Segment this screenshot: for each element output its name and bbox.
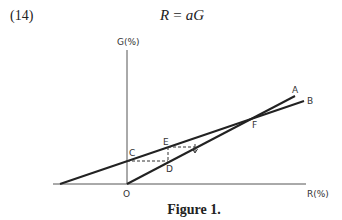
point-e-label: E xyxy=(163,137,169,147)
line-b xyxy=(60,101,304,184)
line-b-label: B xyxy=(307,96,313,106)
y-axis-label: G(%) xyxy=(117,37,140,47)
origin-label: O xyxy=(123,189,130,199)
line-a xyxy=(127,96,295,184)
point-c-label: C xyxy=(129,148,135,158)
point-f-label: F xyxy=(252,120,257,130)
x-axis-label: R(%) xyxy=(307,189,329,199)
figure-caption: Figure 1. xyxy=(0,202,342,218)
point-d-label: D xyxy=(166,164,173,174)
figure-diagram: G(%) R(%) O A B F C E D xyxy=(0,0,342,220)
line-a-label: A xyxy=(292,85,299,95)
